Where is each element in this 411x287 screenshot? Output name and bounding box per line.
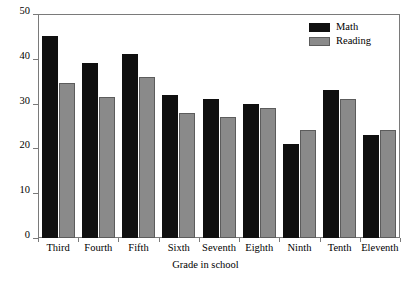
bar-eleventh-math <box>363 135 379 238</box>
x-tick-label-ninth: Ninth <box>287 243 311 254</box>
x-tick-label-fifth: Fifth <box>128 243 148 254</box>
bar-fourth-reading <box>99 97 115 238</box>
math-swatch-icon <box>309 23 330 32</box>
y-tick-label: 30 <box>20 96 31 107</box>
x-tick-mark <box>400 238 401 242</box>
bar-fifth-math <box>122 54 138 238</box>
bar-eleventh-reading <box>380 130 396 238</box>
x-tick-label-third: Third <box>46 243 69 254</box>
y-tick-label: 40 <box>20 51 31 62</box>
x-tick-label-fourth: Fourth <box>84 243 112 254</box>
reading-swatch-icon <box>309 37 330 46</box>
legend-label-math: Math <box>336 22 358 33</box>
bar-sixth-math <box>162 95 178 238</box>
x-tick-mark <box>320 238 321 242</box>
bar-third-reading <box>59 83 75 238</box>
bar-tenth-reading <box>340 99 356 238</box>
y-tick-mark <box>33 148 38 149</box>
x-tick-mark <box>159 238 160 242</box>
x-tick-mark <box>78 238 79 242</box>
bar-third-math <box>42 36 58 238</box>
y-tick-label: 20 <box>20 140 31 151</box>
bar-seventh-reading <box>220 117 236 238</box>
bar-eighth-reading <box>260 108 276 238</box>
y-tick-mark <box>33 193 38 194</box>
bar-seventh-math <box>203 99 219 238</box>
legend-label-reading: Reading <box>336 36 371 47</box>
bar-tenth-math <box>323 90 339 238</box>
y-tick-mark <box>33 14 38 15</box>
bar-chart: 01020304050 ThirdFourthFifthSixthSeventh… <box>0 0 411 287</box>
x-axis-title: Grade in school <box>0 260 411 271</box>
x-tick-mark <box>38 238 39 242</box>
x-tick-mark <box>279 238 280 242</box>
x-tick-label-eighth: Eighth <box>245 243 273 254</box>
legend-item-reading: Reading <box>309 35 393 48</box>
x-tick-label-sixth: Sixth <box>168 243 190 254</box>
y-tick-label: 0 <box>25 230 30 241</box>
x-tick-label-seventh: Seventh <box>202 243 236 254</box>
bar-eighth-math <box>243 104 259 238</box>
x-tick-mark <box>239 238 240 242</box>
x-tick-mark <box>118 238 119 242</box>
y-tick-mark <box>33 104 38 105</box>
y-tick-mark <box>33 59 38 60</box>
bar-sixth-reading <box>179 113 195 238</box>
bar-fifth-reading <box>139 77 155 238</box>
bar-ninth-reading <box>300 130 316 238</box>
x-tick-mark <box>199 238 200 242</box>
y-tick-label: 50 <box>20 6 31 17</box>
y-tick-label: 10 <box>20 185 31 196</box>
x-tick-label-tenth: Tenth <box>328 243 352 254</box>
x-tick-label-eleventh: Eleventh <box>361 243 398 254</box>
bar-ninth-math <box>283 144 299 238</box>
legend: Math Reading <box>309 21 393 49</box>
bar-fourth-math <box>82 63 98 238</box>
legend-item-math: Math <box>309 21 393 34</box>
